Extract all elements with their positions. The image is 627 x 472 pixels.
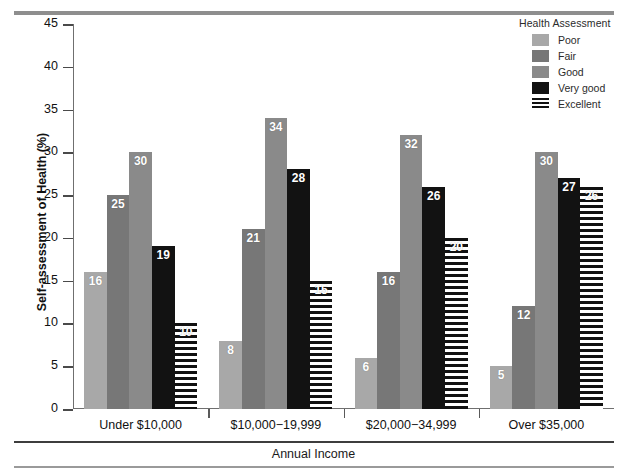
bar-value-label: 15 (310, 284, 333, 297)
bar-value-label: 20 (445, 241, 468, 254)
y-axis-tick: 15 (0, 281, 73, 282)
bar[interactable]: 26 (580, 187, 603, 409)
y-axis-tick-label: 25 (44, 187, 58, 201)
y-axis-tick-mark (63, 238, 73, 240)
bar-value-label: 10 (175, 326, 198, 339)
x-axis-separator (208, 409, 210, 418)
bar-value-label: 5 (490, 369, 513, 382)
bar[interactable]: 15 (310, 281, 333, 409)
y-axis-tick: 0 (0, 409, 73, 410)
bar[interactable]: 12 (512, 306, 535, 409)
bottom-divider-dark (14, 441, 614, 443)
y-axis-tick-label: 0 (51, 401, 58, 415)
bar-value-label: 26 (580, 190, 603, 203)
y-axis-tick: 45 (0, 24, 73, 25)
bar[interactable]: 26 (422, 187, 445, 409)
bar-value-label: 12 (512, 309, 535, 322)
y-axis-tick: 25 (0, 195, 73, 196)
bar[interactable]: 20 (445, 238, 468, 409)
y-axis-tick-label: 5 (51, 358, 58, 372)
y-axis-tick-label: 35 (44, 102, 58, 116)
bottom-divider-light (14, 466, 614, 468)
x-axis-category-label: Over $35,000 (479, 418, 614, 432)
y-axis-tick: 10 (0, 323, 73, 324)
bar-value-label: 26 (422, 190, 445, 203)
y-axis-tick: 5 (0, 366, 73, 367)
x-axis-separator (344, 409, 346, 418)
y-axis-tick-mark (63, 110, 73, 112)
y-axis-title: Self-assessment of Health (%) (35, 92, 49, 352)
y-axis-tick-label: 45 (44, 16, 58, 30)
bar-value-label: 34 (265, 121, 288, 134)
bar[interactable]: 6 (355, 358, 378, 409)
y-axis-tick: 30 (0, 152, 73, 153)
x-axis-category-label: $10,000−19,999 (208, 418, 343, 432)
y-axis-tick-label: 20 (44, 230, 58, 244)
y-axis-tick: 20 (0, 238, 73, 239)
bar-value-label: 16 (84, 275, 107, 288)
bar[interactable]: 32 (400, 135, 423, 409)
y-axis-tick-label: 15 (44, 273, 58, 287)
bar-value-label: 8 (219, 344, 242, 357)
y-axis-tick-label: 10 (44, 315, 58, 329)
bar[interactable]: 5 (490, 366, 513, 409)
bar-value-label: 30 (535, 155, 558, 168)
y-axis-tick: 40 (0, 67, 73, 68)
bar[interactable]: 30 (535, 152, 558, 409)
bar[interactable]: 34 (265, 118, 288, 409)
y-axis-tick-mark (63, 366, 73, 368)
bar[interactable]: 8 (219, 341, 242, 409)
y-axis-tick-mark (63, 152, 73, 154)
chart-figure: Health Assessment PoorFairGoodVery goodE… (0, 0, 627, 472)
y-axis-tick-mark (63, 67, 73, 69)
bar-group: 512302726 (490, 24, 603, 409)
bar-value-label: 32 (400, 138, 423, 151)
bar[interactable]: 19 (152, 246, 175, 409)
x-axis-category-label: Under $10,000 (73, 418, 208, 432)
bar-value-label: 30 (129, 155, 152, 168)
bar-value-label: 25 (107, 198, 130, 211)
bar-value-label: 6 (355, 361, 378, 374)
bar-value-label: 21 (242, 232, 265, 245)
bar-group: 616322620 (355, 24, 468, 409)
top-divider (14, 11, 614, 15)
x-axis-category-label: $20,000−34,999 (344, 418, 479, 432)
bar[interactable]: 25 (107, 195, 130, 409)
x-axis-title: Annual Income (0, 447, 627, 461)
bar-value-label: 16 (377, 275, 400, 288)
plot-area: 1625301910821342815616322620512302726 (73, 24, 614, 409)
x-axis-separator (479, 409, 481, 418)
bar[interactable]: 30 (129, 152, 152, 409)
bar[interactable]: 27 (558, 178, 581, 409)
y-axis-tick: 35 (0, 110, 73, 111)
y-axis-tick-mark (63, 323, 73, 325)
y-axis-tick-mark (63, 281, 73, 283)
bar-group: 821342815 (219, 24, 332, 409)
bar[interactable]: 16 (377, 272, 400, 409)
bar-value-label: 27 (558, 181, 581, 194)
y-axis-tick-mark (63, 24, 73, 26)
bar-group: 1625301910 (84, 24, 197, 409)
y-axis-tick-label: 30 (44, 144, 58, 158)
y-axis-tick-mark (63, 195, 73, 197)
bar-value-label: 19 (152, 249, 175, 262)
bar[interactable]: 10 (175, 323, 198, 409)
bar[interactable]: 28 (287, 169, 310, 409)
bar[interactable]: 21 (242, 229, 265, 409)
bar[interactable]: 16 (84, 272, 107, 409)
y-axis-tick-mark (63, 409, 73, 411)
bar-value-label: 28 (287, 172, 310, 185)
y-axis-tick-label: 40 (44, 59, 58, 73)
